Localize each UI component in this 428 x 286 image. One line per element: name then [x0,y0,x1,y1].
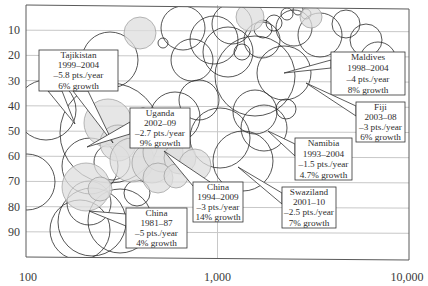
callout-text: 2003–08 [364,112,397,122]
callout-pointer [89,211,126,226]
callout-text: 6% growth [360,132,401,142]
bubble [203,27,253,77]
callout-text: 1981–87 [140,218,173,228]
callout-text: Uganda [146,108,175,118]
y-tick-label: 20 [8,48,20,62]
bubble [171,39,213,81]
callout-pointer [238,167,282,204]
callout-pointer [48,91,75,124]
y-tick-label: 50 [8,124,20,138]
y-tick-label: 60 [8,149,20,163]
callout-text: 2002–09 [144,118,177,128]
x-tick-label: 10,000 [391,270,424,284]
callout-text: 6% growth [58,81,99,91]
callout-text: –1.5 pts./year [298,159,349,169]
annotation-china-1981-87: China1981–87–5 pts./year4% growth [89,208,187,248]
callout-text: 4% growth [136,238,177,248]
callout-text: China [146,208,168,218]
bubble-highlighted [124,17,156,49]
callout-text: –4 pts./year [346,74,390,84]
callout-text: 1999–2004 [58,60,100,70]
callout-text: –2.5 pts./year [283,207,334,217]
callout-text: China [207,182,229,192]
y-tick-label: 80 [8,200,20,214]
callout-text: 4.7% growth [300,170,348,180]
callout-pointer [284,60,331,73]
callout-text: Fiji [374,102,387,112]
bubble [161,6,205,50]
callout-text: Tajikistan [60,50,97,60]
callout-text: 14% growth [195,212,241,222]
y-tick-label: 10 [8,23,20,37]
bubble-chart: 102030405060708090 1001,00010,000 Tajiki… [0,0,428,286]
bubble-highlighted [88,177,112,201]
callout-text: 9% growth [140,138,181,148]
callout-text: 2001–10 [293,197,326,207]
annotation-namibia: Namibia1993–2004–1.5 pts./year4.7% growt… [268,131,352,180]
x-tick-label: 100 [19,270,37,284]
x-axis-labels: 1001,00010,000 [19,270,424,284]
y-tick-label: 90 [8,225,20,239]
callout-text: –5 pts./year [134,228,178,238]
bubble [332,10,360,38]
annotations: Tajikistan1999–2004–5.8 pts./year6% grow… [39,50,405,248]
callout-text: 1993–2004 [303,149,345,159]
bubble-highlighted [300,6,322,28]
callout-text: –3 pts./year [358,122,402,132]
bubble [276,99,296,119]
y-tick-label: 40 [8,99,20,113]
callout-text: 1998–2004 [347,63,389,73]
y-tick-label: 30 [8,74,20,88]
callout-text: 8% growth [348,85,389,95]
bubble [234,44,250,60]
y-tick-label: 70 [8,174,20,188]
x-tick-label: 1,000 [204,270,231,284]
annotation-maldives: Maldives1998–2004–4 pts./year8% growth [284,52,405,95]
callout-text: Maldives [351,52,386,62]
bubble [215,36,295,116]
callout-text: –3 pts./year [196,202,240,212]
callout-text: –2.7 pts./year [134,128,185,138]
callout-text: 7% growth [289,218,330,228]
callout-text: 1994–2009 [197,192,239,202]
callout-text: –5.8 pts./year [53,70,104,80]
y-axis-labels: 102030405060708090 [8,23,20,239]
callout-text: Namibia [308,138,340,148]
bubble [350,24,382,56]
callout-text: Swaziland [290,187,329,197]
annotation-tajikistan: Tajikistan1999–2004–5.8 pts./year6% grow… [39,50,118,143]
bubble [233,90,277,134]
